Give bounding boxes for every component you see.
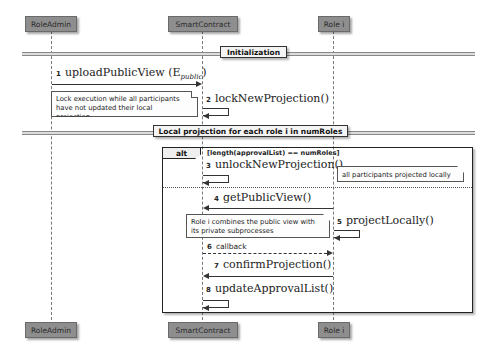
- participant-role-i-bottom: Role i: [318, 322, 350, 338]
- message-number: 4: [214, 195, 219, 203]
- arrow-1: [52, 84, 196, 85]
- message-label: lockNewProjection(): [215, 92, 329, 105]
- arrow-6: [203, 253, 327, 254]
- arrowhead-6: [327, 250, 333, 256]
- message-subscript: public: [180, 73, 202, 81]
- divider-local-projection: Local projection for each role i in numR…: [153, 125, 348, 137]
- message-4: 4getPublicView(): [214, 191, 311, 204]
- message-number: 3: [206, 162, 211, 170]
- message-number: 8: [206, 286, 211, 294]
- message-2: 2lockNewProjection(): [206, 92, 329, 105]
- divider-initialization-line-right: [283, 52, 475, 56]
- arrowhead-5: [334, 235, 340, 241]
- lifeline-roleadmin: [51, 31, 52, 320]
- message-number: 5: [337, 218, 342, 226]
- message-8: 8updateApprovalList(): [206, 282, 333, 295]
- participant-smartcontract-bottom: SmartContract: [168, 322, 238, 338]
- divider-local-projection-line: [22, 131, 156, 135]
- message-label: confirmProjection(): [223, 258, 332, 271]
- message-label: uploadPublicView (E: [65, 66, 181, 79]
- message-number: 1: [56, 70, 61, 78]
- alt-guard: [length(approvalList) == numRoles]: [207, 149, 340, 157]
- note-all-projected: all participants projected locally: [337, 166, 464, 182]
- message-5: 5projectLocally(): [337, 214, 434, 227]
- arrowhead-1: [196, 81, 202, 87]
- note-line-1: Lock execution while all participants: [56, 95, 187, 104]
- message-3: 3unlockNewProjection(): [206, 158, 343, 171]
- message-1: 1uploadPublicView (Epublic): [56, 66, 207, 81]
- note-fold: [191, 91, 198, 98]
- message-label: unlockNewProjection(): [215, 158, 343, 171]
- note-line-1: Role i combines the public view with: [191, 218, 319, 227]
- alt-tag: alt: [163, 148, 201, 159]
- message-7: 7confirmProjection(): [214, 258, 331, 271]
- participant-roleadmin-top: RoleAdmin: [25, 16, 77, 32]
- participant-smartcontract-top: SmartContract: [168, 16, 238, 32]
- participant-role-i-top: Role i: [318, 16, 350, 32]
- arrowhead-4: [203, 205, 209, 211]
- message-label: getPublicView(): [223, 191, 311, 204]
- message-number: 2: [206, 96, 211, 104]
- note-line-2: have not updated their local projection: [56, 104, 187, 122]
- arrowhead-2: [203, 113, 209, 119]
- message-label: updateApprovalList(): [215, 282, 333, 295]
- message-label: callback: [216, 242, 247, 251]
- divider-local-projection-line-right: [346, 131, 475, 135]
- message-6: 6callback: [207, 242, 247, 251]
- participant-roleadmin-bottom: RoleAdmin: [25, 322, 77, 338]
- arrowhead-8: [203, 305, 209, 311]
- note-lock-execution: Lock execution while all participants ha…: [51, 91, 198, 117]
- note-combines: Role i combines the public view with its…: [186, 214, 330, 238]
- message-label: projectLocally(): [346, 214, 434, 227]
- alt-separator: [163, 187, 472, 188]
- message-number: 7: [214, 262, 219, 270]
- arrowhead-7: [203, 273, 209, 279]
- message-suffix: ): [202, 66, 206, 79]
- arrow-7: [209, 276, 333, 277]
- arrow-4: [209, 208, 333, 209]
- message-number: 6: [207, 243, 212, 251]
- arrowhead-3: [203, 180, 209, 186]
- note-line-2: its private subprocesses: [191, 227, 319, 236]
- divider-initialization: Initialization: [220, 46, 287, 58]
- divider-initialization-line: [22, 52, 236, 56]
